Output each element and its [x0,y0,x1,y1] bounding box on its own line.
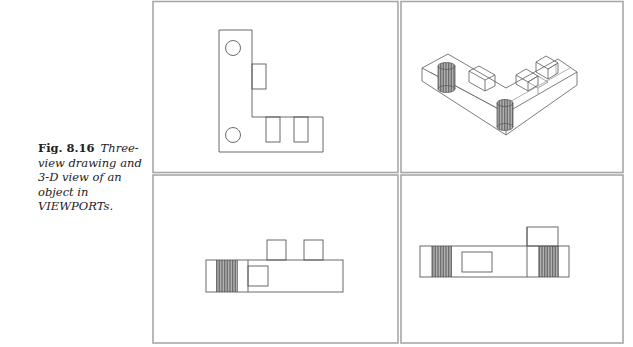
boss-rect-2 [266,117,280,142]
side-boss [527,227,558,246]
isometric-view-drawing [422,54,577,135]
l-shape-outline [219,30,323,152]
top-view-drawing [219,30,323,152]
viewport-top-right-frame [401,2,623,173]
hole-circle-1 [226,41,241,56]
hole-circle-2 [226,128,241,143]
hatched-section-right [538,246,559,277]
viewport-grid [0,0,633,347]
front-inner-rect [248,266,268,286]
cylinder-right [497,100,513,131]
hatched-section-left [431,246,452,277]
viewport-bottom-left-frame [153,175,398,343]
front-boss-2 [304,240,323,260]
boss-rect-3 [294,117,308,142]
side-inner-rect [462,252,492,272]
viewport-top-left-frame [153,2,398,173]
hatched-section [216,260,238,292]
side-view-drawing [420,227,569,277]
front-boss-1 [267,240,286,260]
front-view-drawing [206,240,343,292]
boss-rect-1 [252,64,266,89]
cylinder-left [438,63,455,93]
